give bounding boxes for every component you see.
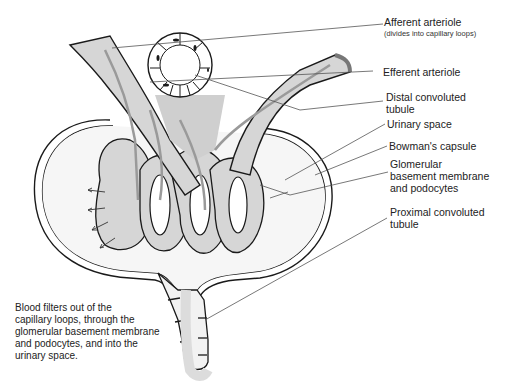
caption-line: glomerular basement membrane xyxy=(15,326,160,338)
caption-line: urinary space. xyxy=(15,350,78,362)
label-bowmans-capsule: Bowman's capsule xyxy=(389,140,476,152)
caption-line: Blood filters out of the xyxy=(15,302,112,314)
label-gbm-line1: Glomerular xyxy=(390,158,442,170)
label-proximal-tubule-line1: Proximal convoluted xyxy=(390,206,485,218)
label-afferent-arteriole: Afferent arteriole xyxy=(384,16,461,28)
caption-line: and podocytes, and into the xyxy=(15,338,138,350)
label-gbm-line2: basement membrane xyxy=(390,170,489,182)
label-gbm-line3: and podocytes xyxy=(390,182,458,194)
label-distal-tubule-line2: tubule xyxy=(386,103,415,115)
distal-convoluted-tubule xyxy=(148,33,212,97)
label-proximal-tubule-line2: tubule xyxy=(390,218,419,230)
label-efferent-arteriole: Efferent arteriole xyxy=(383,66,460,78)
label-afferent-note: (divides into capillary loops) xyxy=(384,29,476,38)
label-urinary-space: Urinary space xyxy=(387,118,452,130)
label-distal-tubule-line1: Distal convoluted xyxy=(386,91,466,103)
caption-line: capillary loops, through the xyxy=(15,314,135,326)
